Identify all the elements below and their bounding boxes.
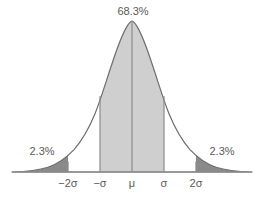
- distribution-plot: [0, 0, 263, 201]
- x-tick-label-two-sigma: 2σ: [174, 177, 218, 189]
- annotation-right-tail-percent: 2.3%: [202, 145, 242, 157]
- normal-distribution-figure: 68.3% 2.3% 2.3% −2σ −σ μ σ 2σ: [0, 0, 263, 201]
- annotation-left-tail-percent: 2.3%: [22, 145, 62, 157]
- annotation-center-percent: 68.3%: [113, 5, 153, 17]
